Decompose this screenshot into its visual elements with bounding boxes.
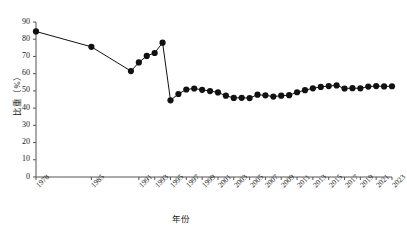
data-point: [270, 93, 276, 99]
data-point: [207, 88, 213, 94]
data-point: [191, 85, 197, 91]
data-point: [254, 92, 260, 98]
data-point: [278, 93, 284, 99]
x-axis-label: 年份: [172, 212, 190, 224]
data-point: [318, 84, 324, 90]
data-series: [33, 28, 395, 103]
data-point: [136, 59, 142, 65]
data-point: [199, 87, 205, 93]
y-tick-label: 20: [8, 137, 30, 146]
data-point: [223, 93, 229, 99]
data-point: [231, 95, 237, 101]
data-point: [239, 95, 245, 101]
y-tick-label: 60: [8, 68, 30, 77]
y-tick-label: 50: [8, 85, 30, 94]
y-tick-label: 40: [8, 103, 30, 112]
data-point: [128, 68, 134, 74]
data-point: [389, 83, 395, 89]
data-point: [247, 95, 253, 101]
series-line: [36, 31, 392, 100]
data-point: [302, 87, 308, 93]
data-point: [144, 53, 150, 59]
data-point: [357, 85, 363, 91]
data-point: [310, 85, 316, 91]
data-point: [373, 83, 379, 89]
data-point: [88, 44, 94, 50]
y-tick-label: 80: [8, 34, 30, 43]
data-point: [152, 50, 158, 56]
data-point: [341, 85, 347, 91]
data-point: [349, 85, 355, 91]
y-tick-label: 30: [8, 120, 30, 129]
data-point: [286, 92, 292, 98]
data-point: [294, 89, 300, 95]
y-tick-label: 0: [8, 172, 30, 181]
data-point: [167, 97, 173, 103]
data-point: [334, 82, 340, 88]
data-point: [159, 40, 165, 46]
data-point: [183, 86, 189, 92]
data-point: [215, 89, 221, 95]
y-tick-label: 70: [8, 51, 30, 60]
data-point: [175, 91, 181, 97]
data-point: [365, 83, 371, 89]
y-tick-label: 10: [8, 154, 30, 163]
data-point: [262, 92, 268, 98]
data-point: [381, 83, 387, 89]
y-tick-label: 90: [8, 17, 30, 26]
data-point: [326, 83, 332, 89]
data-point: [33, 28, 39, 34]
